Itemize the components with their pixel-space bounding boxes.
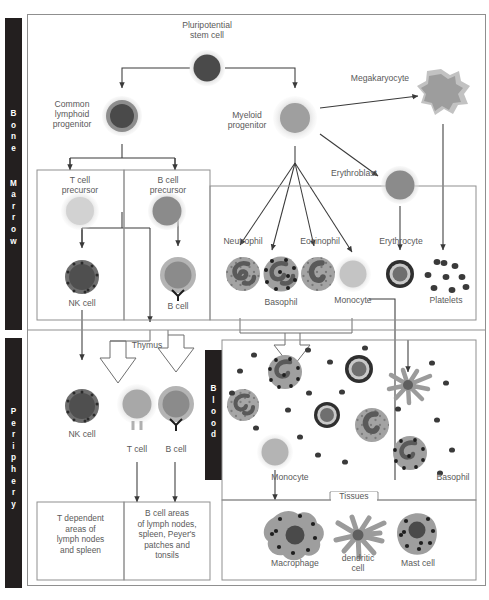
label-nk-cell-marrow: NK cell: [57, 298, 107, 308]
cell-eosinophil: [301, 257, 335, 291]
label-platelets: Platelets: [422, 295, 470, 305]
label-t-cell-precursor: T cell precursor: [50, 175, 110, 195]
lymphoid-split-line: [70, 144, 175, 168]
cell-blood-erythrocyte-2: [314, 402, 340, 428]
label-b-cell-precursor: B cell precursor: [138, 175, 198, 195]
label-common-lymphoid-progenitor: Common lymphoid progenitor: [41, 99, 103, 129]
cell-myeloid-progenitor: [273, 96, 317, 140]
cell-b-cell-precursor: [148, 192, 186, 230]
cell-monocyte-marrow: [335, 256, 371, 292]
cell-basophil: [264, 257, 299, 292]
label-b-cell-periphery: B cell: [153, 444, 199, 454]
text-b-cell-areas: B cell areas of lymph nodes, spleen, Pey…: [126, 508, 208, 561]
cell-blood-eosinophil-1: [355, 408, 389, 442]
arrow-to-neutrophil: [240, 163, 295, 245]
blood-cell-group: [227, 345, 455, 475]
cell-t-cell-precursor: [61, 192, 99, 230]
label-basophil: Basophil: [253, 297, 309, 307]
cell-neutrophil: [226, 257, 260, 291]
cell-platelets: [425, 259, 470, 293]
arrow-stem-to-myeloid: [225, 68, 295, 88]
cell-nk-cell-periphery: [65, 389, 99, 423]
cell-blood-dendritic: [389, 370, 430, 403]
label-mast-cell: Mast cell: [389, 558, 447, 568]
label-nk-cell-periphery: NK cell: [57, 429, 107, 439]
cell-pluripotential-stem-cell: [189, 50, 225, 86]
label-macrophage: Macrophage: [262, 558, 328, 568]
cell-erythroblast: [381, 166, 419, 204]
arrow-to-eosinophil: [295, 163, 314, 246]
label-megakaryocyte: Megakaryocyte: [344, 73, 416, 83]
label-thymus: Thymus: [124, 340, 170, 350]
label-myeloid-progenitor: Myeloid progenitor: [218, 110, 276, 130]
cell-macrophage: [264, 511, 324, 560]
label-blood-monocyte: Monocyte: [264, 472, 316, 482]
cell-common-lymphoid-progenitor: [102, 96, 142, 136]
cell-blood-erythrocyte-1: [345, 355, 373, 383]
cell-b-cell-marrow: [160, 257, 196, 301]
cell-megakaryocyte: [417, 69, 470, 115]
label-tissues: Tissues: [331, 491, 377, 501]
label-dendritic-cell: dendritic cell: [332, 553, 384, 573]
label-erythrocyte: Erythrocyte: [372, 236, 430, 246]
cell-nk-cell-marrow: [65, 260, 99, 294]
haematopoiesis-diagram: Bone Marrow Periphery Blood: [0, 0, 489, 600]
cell-mast-cell: [397, 513, 437, 555]
cell-blood-basophil-2: [393, 436, 427, 470]
label-blood-basophil: Basophil: [426, 472, 480, 482]
cell-blood-basophil-1: [268, 355, 302, 389]
cell-erythrocyte: [386, 260, 414, 288]
cell-blood-monocyte: [257, 434, 293, 470]
label-monocyte-marrow: Monocyte: [327, 295, 379, 305]
label-erythroblast: Erythroblast: [326, 168, 382, 178]
label-pluripotential-stem-cell: Pluripotential stem cell: [160, 20, 254, 40]
cell-t-cell-periphery: [117, 384, 157, 430]
label-neutrophil: Neutrophil: [213, 236, 273, 246]
label-eosinophil: Eosinophil: [292, 236, 348, 246]
arrow-stem-to-lymphoid: [122, 68, 190, 88]
label-b-cell-marrow: B cell: [154, 301, 202, 311]
cell-dendritic-tissue: [336, 517, 384, 557]
text-t-dependent-areas: T dependent areas of lymph nodes and spl…: [39, 513, 122, 555]
arrow-myeloid-to-megakaryocyte: [320, 96, 418, 108]
cell-b-cell-periphery: [158, 386, 194, 431]
